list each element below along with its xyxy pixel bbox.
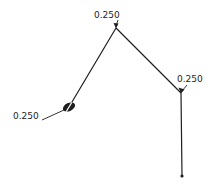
- dimension-label-left[interactable]: 0.250: [13, 112, 39, 121]
- path-end-point[interactable]: [180, 174, 183, 177]
- leader-left: [42, 110, 64, 120]
- dimension-label-top[interactable]: 0.250: [94, 11, 120, 20]
- dimension-label-right[interactable]: 0.250: [177, 75, 203, 84]
- arrowhead-top: [114, 23, 119, 29]
- tube-path[interactable]: [69, 28, 182, 176]
- tube-routing-drawing: [0, 0, 214, 190]
- cad-drawing-viewport: 0.250 0.250 0.250: [0, 0, 214, 190]
- bend-marker[interactable]: [61, 101, 76, 114]
